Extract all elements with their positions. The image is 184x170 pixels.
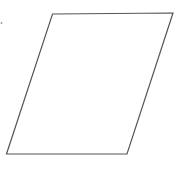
parallelogram-shape (7, 13, 174, 154)
diagram-canvas (0, 0, 184, 170)
stray-dot (1, 22, 3, 24)
